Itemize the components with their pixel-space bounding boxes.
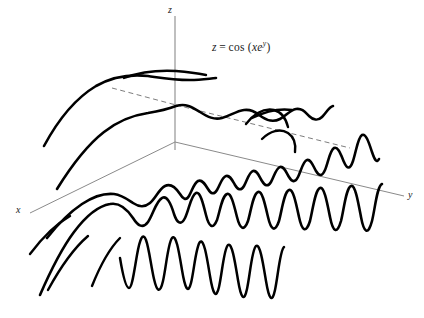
z-axis-label: z xyxy=(168,5,172,15)
curve-right-small-arc xyxy=(262,131,295,152)
curve-third-slice xyxy=(47,135,379,238)
equation-equals: = xyxy=(217,41,229,53)
equation-open-paren: ( xyxy=(245,41,252,53)
curve-front-slice-dense-valleys xyxy=(120,236,284,298)
dashed-peak-to-left xyxy=(112,88,176,105)
y-axis-line xyxy=(175,142,404,196)
equation-close-paren: ) xyxy=(266,41,270,53)
curve-front-left-tail-c xyxy=(92,238,120,286)
x-axis-label: x xyxy=(16,205,20,215)
curve-back-slice xyxy=(44,75,216,146)
construction-dashed-lines xyxy=(112,88,350,148)
equation-function: cos xyxy=(229,41,245,53)
x-axis-line xyxy=(30,142,175,213)
y-axis-label: y xyxy=(408,190,412,200)
curve-peak-cap-segment xyxy=(124,71,206,78)
surface-plot-figure: z x y z=cos(xey) xyxy=(0,0,424,318)
equation-label: z=cos(xey) xyxy=(212,41,271,53)
